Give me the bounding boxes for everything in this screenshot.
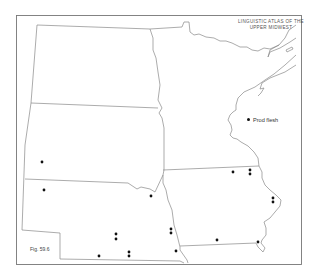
lake-superior-shore (236, 55, 296, 105)
data-dot (175, 250, 178, 253)
data-dot (128, 251, 131, 254)
data-dot (170, 228, 173, 231)
upper-midwest-map (0, 0, 313, 278)
data-dot (216, 239, 219, 242)
atlas-title-line2: UPPER MIDWEST (236, 25, 306, 31)
data-dot (272, 201, 275, 204)
isle-royale (286, 47, 293, 52)
western-boundary (22, 25, 37, 230)
data-dot (41, 161, 44, 164)
data-points (41, 161, 275, 258)
data-dot (249, 173, 252, 176)
legend-label: Prod flesh (253, 117, 278, 123)
data-dot (128, 255, 131, 258)
data-dot (115, 238, 118, 241)
lake-superior-north-shore (268, 38, 296, 57)
legend-dot-icon (247, 118, 250, 121)
data-dot (43, 189, 46, 192)
sd-mn-border (159, 108, 164, 175)
data-dot (98, 255, 101, 258)
data-dot (115, 233, 118, 236)
data-dot (272, 197, 275, 200)
ia-east-border (256, 166, 281, 252)
map-frame (17, 16, 302, 265)
data-dot (249, 169, 252, 172)
map-legend: Prod flesh (247, 117, 278, 123)
data-dot (170, 232, 173, 235)
nd-mn-border (150, 29, 162, 108)
figure-label: Fig. 59.6 (30, 246, 49, 252)
data-dot (150, 195, 153, 198)
nd-north-border (37, 25, 150, 29)
mn-ia-border (163, 166, 259, 170)
nd-sd-border (31, 103, 158, 108)
ne-ia-border (155, 175, 188, 263)
atlas-title: LINGUISTIC ATLAS OF THE UPPER MIDWEST (236, 19, 306, 31)
mn-wi-border (228, 105, 259, 166)
data-dot (257, 241, 260, 244)
data-dot (232, 171, 235, 174)
ia-south-border (180, 243, 256, 246)
